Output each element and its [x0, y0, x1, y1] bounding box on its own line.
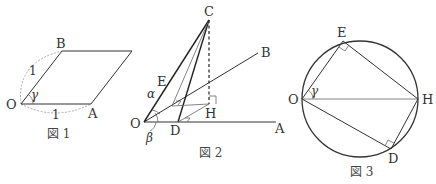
right-angle-d: [185, 118, 190, 122]
side-ob-label: 1: [29, 64, 37, 78]
figure-3-caption: 図 3: [350, 165, 373, 179]
label-h: H: [205, 106, 216, 121]
angle-gamma-label: γ: [311, 84, 319, 98]
edge-oc: [144, 20, 209, 122]
figure-1-caption: 図 1: [47, 127, 70, 141]
figure-2-caption: 図 2: [199, 146, 222, 160]
label-b: B: [56, 36, 66, 51]
diagram-canvas: O B A γ 1 1 図 1 C B A O: [0, 0, 436, 184]
angle-beta-arc: [150, 122, 156, 131]
angle-beta-label: β: [145, 131, 153, 145]
label-a: A: [87, 106, 98, 121]
label-b: B: [261, 45, 271, 60]
right-angle-h: [209, 96, 216, 104]
label-d: D: [388, 151, 398, 166]
segment-he: [172, 104, 209, 106]
angle-alpha-arc: [152, 110, 160, 114]
side-oa-label: 1: [52, 108, 60, 122]
figure-3: O E H D γ 図 3: [288, 25, 433, 179]
edge-ce: [172, 20, 209, 106]
label-o: O: [288, 92, 299, 107]
angle-alpha-label: α: [147, 87, 155, 101]
figure-1: O B A γ 1 1 図 1: [6, 36, 132, 141]
right-angle-e: [339, 45, 349, 51]
label-e: E: [157, 74, 167, 89]
label-h: H: [422, 92, 433, 107]
angle-gamma-label: γ: [31, 88, 39, 102]
label-o: O: [6, 97, 17, 112]
label-o: O: [130, 116, 141, 131]
label-c: C: [204, 4, 214, 19]
label-e: E: [337, 25, 347, 40]
label-a: A: [274, 121, 285, 136]
figure-2: C B A O E H D α β 図 2: [130, 4, 285, 160]
label-d: D: [170, 123, 180, 138]
